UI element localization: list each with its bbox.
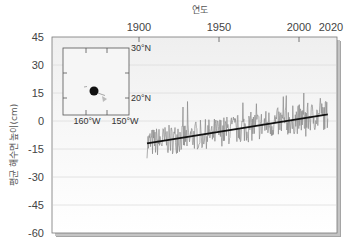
x-tick-label: 1950 — [207, 21, 231, 33]
inset-lon-right: 150°W — [111, 116, 139, 126]
y-axis-ticks: 4530150-15-30-45-60 — [28, 31, 44, 239]
inset-lat-bottom: 20°N — [131, 93, 151, 103]
y-tick-label: 15 — [32, 87, 44, 99]
y-tick-label: -45 — [28, 199, 44, 211]
station-marker-icon — [90, 87, 99, 96]
inset-lon-left: 160°W — [73, 116, 101, 126]
x-tick-label: 1900 — [127, 21, 151, 33]
y-tick-label: 30 — [32, 59, 44, 71]
x-axis-title: 연도 — [192, 5, 208, 15]
y-tick-label: -60 — [28, 227, 44, 239]
chart-svg: 4530150-15-30-45-60 1900195020002020 연도 … — [0, 0, 358, 248]
x-tick-label: 2000 — [287, 21, 311, 33]
y-tick-label: -30 — [28, 171, 44, 183]
y-tick-label: -15 — [28, 143, 44, 155]
y-tick-label: 0 — [38, 115, 44, 127]
island-kauai-icon — [84, 87, 87, 88]
y-tick-label: 45 — [32, 31, 44, 43]
x-tick-label: 2020 — [319, 21, 343, 33]
y-axis-title: 평균 해수면 높이(cm) — [9, 104, 19, 186]
inset-lat-top: 30°N — [131, 43, 151, 53]
inset-map-frame — [63, 48, 129, 115]
